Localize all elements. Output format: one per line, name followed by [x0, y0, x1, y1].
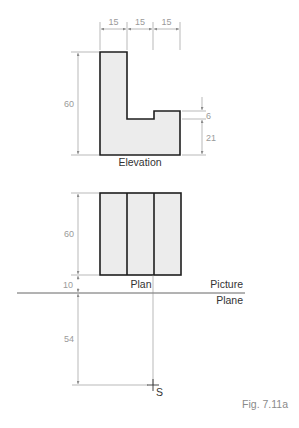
- dim-width-1: 15: [108, 17, 118, 27]
- dim-width-3: 15: [161, 17, 171, 27]
- orthographic-drawing: 15 15 15 60 6 21 Elevation 60 10 Plan: [0, 0, 299, 428]
- dim-width-2: 15: [135, 17, 145, 27]
- dim-plan-offset: 10: [63, 280, 73, 290]
- elevation-label: Elevation: [118, 156, 161, 168]
- dim-step-height: 21: [206, 133, 216, 143]
- dim-step-depth: 6: [206, 111, 211, 121]
- picture-plane-label-1: Picture: [210, 278, 243, 290]
- elevation-view: 15 15 15 60 6 21 Elevation: [64, 17, 216, 168]
- dim-elevation-height: 60: [64, 99, 74, 109]
- plan-view: 60 10 Plan: [63, 193, 181, 292]
- picture-plane-label-2: Plane: [216, 294, 243, 306]
- plan-label: Plan: [130, 278, 151, 290]
- dim-station-distance: 54: [64, 334, 74, 344]
- station-point-label: S: [156, 386, 163, 398]
- dim-plan-depth: 60: [64, 229, 74, 239]
- plan-outline: [100, 193, 181, 275]
- station-point-construction: 54 S: [64, 275, 163, 398]
- figure-caption: Fig. 7.11a: [242, 398, 288, 410]
- elevation-outline: [100, 52, 180, 155]
